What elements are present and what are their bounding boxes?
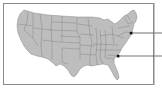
- map-marker-northeast[interactable]: [130, 32, 133, 35]
- us-map: [0, 0, 162, 90]
- map-marker-southeast[interactable]: [117, 55, 120, 58]
